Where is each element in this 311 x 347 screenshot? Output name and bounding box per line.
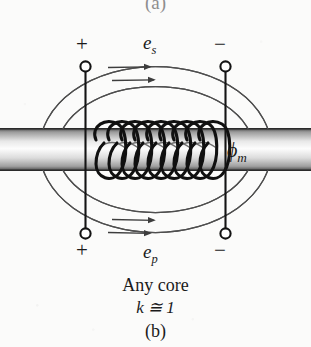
figure-caption-above: (a)	[0, 0, 311, 12]
magnetic-flux-label: ϕm	[227, 140, 247, 164]
polarity-top-right: −	[214, 34, 226, 55]
polarity-bottom-left: +	[76, 240, 88, 261]
terminal-top-right[interactable]	[220, 61, 230, 71]
core-note: Any core	[0, 276, 311, 294]
secondary-emf-label: es	[143, 33, 156, 56]
flux-symbol: ϕ	[227, 139, 237, 161]
coupling-coefficient-note: k ≅ 1	[0, 299, 311, 316]
polarity-bottom-right: −	[214, 240, 226, 261]
primary-emf-label: ep	[143, 242, 158, 265]
magnetic-core-bar	[0, 129, 311, 171]
coupling-coefficient-value: k ≅ 1	[136, 298, 175, 317]
primary-emf-subscript: p	[151, 252, 157, 266]
terminal-top-left[interactable]	[80, 61, 90, 71]
figure-caption-below: (b)	[0, 322, 311, 340]
physics-figure: (a) + − + − es ep ϕm Any core k ≅ 1 (b)	[0, 0, 311, 347]
flux-subscript: m	[237, 150, 247, 165]
polarity-top-left: +	[76, 34, 88, 55]
secondary-emf-subscript: s	[151, 43, 156, 57]
